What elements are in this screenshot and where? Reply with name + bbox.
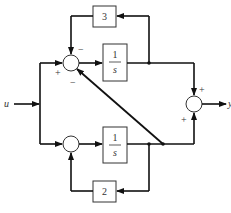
top-integrator-numerator: 1 (113, 49, 118, 60)
top-junction-minus-top-sign: − (78, 44, 84, 55)
output-label: y (227, 98, 231, 109)
output-junction-plus-top-sign: + (199, 84, 205, 95)
block-diagram: u + − − 1 s 3 + + y 1 s 2 (0, 0, 231, 213)
bottom-integrator-denominator: s (113, 147, 117, 158)
top-summing-junction (63, 55, 79, 71)
output-junction-plus-bottom-sign: + (181, 114, 187, 125)
top-junction-plus-sign: + (55, 67, 61, 78)
bottom-summing-junction (63, 136, 79, 152)
top-integrator-denominator: s (113, 64, 117, 75)
input-label: u (4, 98, 9, 109)
gain-3-label: 3 (102, 11, 107, 22)
output-summing-junction (186, 96, 202, 112)
gain-2-label: 2 (102, 186, 107, 197)
bottom-integrator-numerator: 1 (113, 132, 118, 143)
top-junction-minus-bottom-sign: − (70, 77, 76, 88)
